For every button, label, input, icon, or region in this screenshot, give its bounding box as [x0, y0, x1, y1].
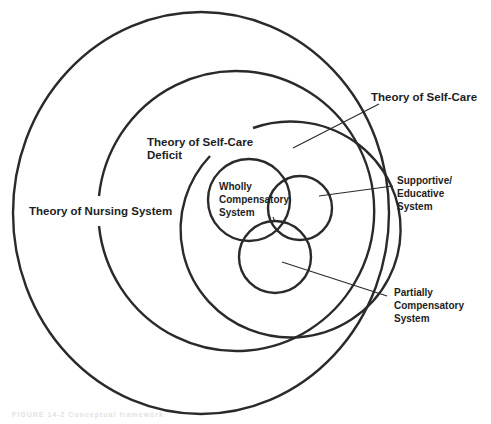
leader-line-self-care — [293, 104, 379, 148]
figure-caption: FIGURE 14-2 Conceptual framework — [12, 411, 164, 418]
leader-line-partially — [282, 262, 387, 296]
leader-line-supportive — [319, 186, 393, 196]
label-supportive-educative-system: Supportive/ Educative System — [397, 174, 452, 213]
label-partially-compensatory-system: Partially Compensatory System — [394, 286, 464, 325]
label-wholly-compensatory-system: Wholly Compensatory System — [219, 180, 289, 219]
label-theory-of-self-care-deficit: Theory of Self-Care Deficit — [147, 136, 253, 162]
label-theory-of-self-care: Theory of Self-Care — [371, 91, 477, 104]
label-theory-of-nursing-system: Theory of Nursing System — [29, 205, 172, 218]
